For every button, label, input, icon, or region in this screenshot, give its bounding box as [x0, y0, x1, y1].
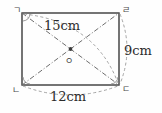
vertex-label-top-left: ㄱ — [13, 6, 21, 15]
measurement-label-right-side: 9cm — [124, 43, 152, 58]
center-point-dot — [69, 47, 73, 51]
geometry-figure: 15cm 9cm 12cm ㄱ ㄹ ㄷ ㄴ ㅇ — [0, 0, 162, 113]
measurement-label-bottom-side: 12cm — [50, 89, 86, 104]
measurement-label-diagonal: 15cm — [44, 18, 80, 33]
vertex-label-bottom-left: ㄴ — [12, 86, 20, 95]
vertex-label-top-right: ㄹ — [122, 6, 130, 15]
vertex-label-bottom-right: ㄷ — [122, 85, 130, 94]
center-point-label: ㅇ — [65, 57, 73, 66]
